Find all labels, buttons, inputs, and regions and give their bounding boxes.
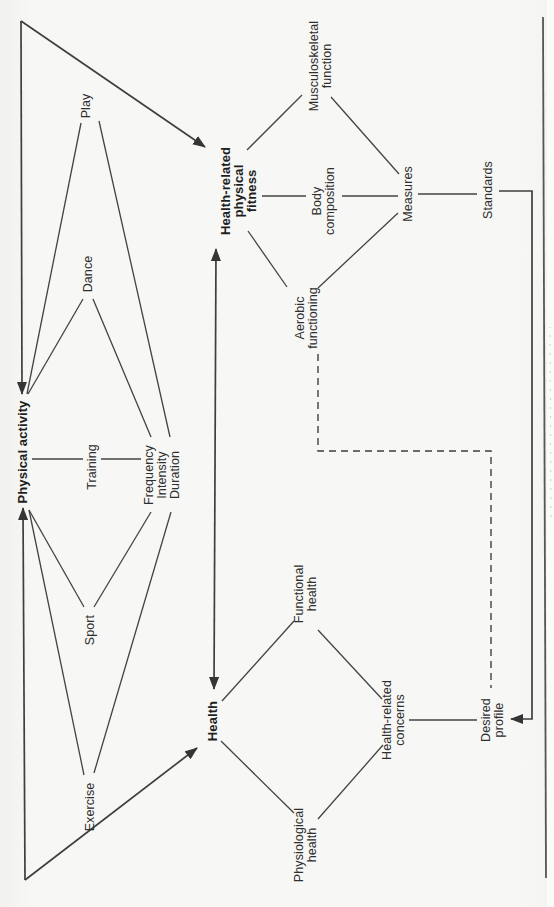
node-health-related-physical-fitness: Health-related physical fitness	[219, 147, 258, 235]
arrow-into-fitness	[21, 21, 205, 147]
edge-fitness-musculoskeletal	[247, 95, 302, 150]
node-musculoskeletal-function: Musculoskeletal function	[308, 21, 334, 111]
edge-dance-fid	[93, 299, 151, 437]
edge-play-pa	[27, 123, 81, 394]
arrow-health-fitness	[214, 249, 216, 689]
node-functional-health: Functional health	[293, 565, 319, 624]
edge-health-physiological	[221, 741, 294, 813]
edge-play-fid	[99, 121, 170, 437]
node-frequency-intensity-duration: Frequency Intensity Duration	[143, 445, 182, 505]
page-edge-line	[543, 17, 546, 878]
edge-sport-pa	[29, 510, 84, 607]
node-health: Health	[206, 701, 219, 741]
node-dance: Dance	[82, 256, 95, 293]
node-measures: Measures	[402, 166, 415, 222]
node-body-composition: Body composition	[311, 167, 337, 235]
edge-functional-concerns	[318, 630, 382, 699]
arrow-pa-top-right	[21, 21, 22, 394]
node-health-related-concerns: Health-related concerns	[381, 680, 407, 760]
edge-health-functional	[222, 621, 294, 701]
edge-dashed-aerobic-desired	[318, 354, 491, 688]
scanned-figure-page: Physical activity Exercise Sport Dance P…	[0, 0, 554, 907]
diagram-stage: Physical activity Exercise Sport Dance P…	[0, 0, 554, 907]
edge-exercise-fid	[94, 512, 171, 773]
edge-musculoskeletal-measures	[331, 97, 399, 174]
node-physiological-health: Physiological health	[293, 808, 319, 882]
edge-physiological-concerns	[318, 745, 383, 819]
edge-fitness-aerobic	[248, 231, 287, 287]
diagram-lines	[0, 0, 554, 907]
node-training: Training	[86, 444, 99, 490]
node-play: Play	[80, 94, 93, 119]
node-exercise: Exercise	[84, 783, 97, 832]
node-aerobic-functioning: Aerobic functioning	[294, 287, 320, 349]
arrow-pa-top-left	[23, 508, 25, 880]
edge-exercise-pa	[29, 510, 84, 775]
arrow-into-health	[25, 748, 197, 880]
node-physical-activity: Physical activity	[16, 401, 29, 504]
node-sport: Sport	[84, 615, 97, 645]
arrow-standards-desired-profile	[499, 191, 532, 719]
node-standards: Standards	[482, 161, 495, 219]
node-desired-profile: Desired profile	[480, 698, 506, 742]
edge-sport-fid	[94, 512, 151, 607]
